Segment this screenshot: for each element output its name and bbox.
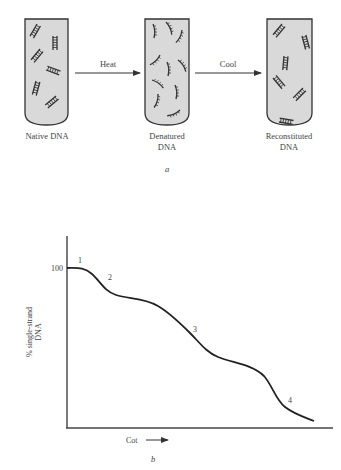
- heat-label: Heat: [100, 59, 117, 69]
- point-label-2: 2: [108, 273, 112, 282]
- tube-label-reconstituted-2: DNA: [280, 142, 299, 152]
- test-tube-native: [25, 19, 68, 125]
- test-tube-denatured: [145, 19, 189, 125]
- point-label-1: 1: [78, 256, 82, 265]
- point-label-3: 3: [193, 325, 197, 334]
- panel-b: 100 % single-strand DNA 1 2 3 4 Cot b: [25, 236, 333, 464]
- cool-arrow: Cool: [195, 59, 261, 73]
- cool-label: Cool: [220, 59, 237, 69]
- tube-label-reconstituted-1: Reconstituted: [266, 131, 313, 141]
- tube-label-denatured-2: DNA: [158, 142, 177, 152]
- svg-text:% single-strand: % single-strand: [25, 307, 34, 357]
- reassociation-curve: [67, 268, 314, 421]
- caption-b: b: [151, 454, 155, 464]
- panel-a: Heat Cool: [25, 19, 313, 174]
- ytick-100: 100: [51, 264, 63, 273]
- figure: Heat Cool: [0, 0, 341, 470]
- tube-label-native: Native DNA: [25, 131, 69, 141]
- heat-arrow: Heat: [75, 59, 140, 73]
- svg-text:DNA: DNA: [34, 323, 43, 341]
- caption-a: a: [165, 164, 169, 174]
- tube-label-denatured-1: Denatured: [149, 131, 185, 141]
- x-axis-label: Cot: [126, 436, 138, 445]
- test-tube-reconstituted: [267, 19, 312, 125]
- point-label-4: 4: [288, 396, 292, 405]
- y-axis-label: % single-strand DNA: [25, 307, 43, 357]
